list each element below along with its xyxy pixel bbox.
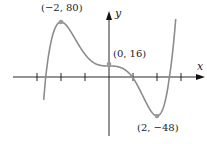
- function-curve: [44, 19, 176, 116]
- x-axis-arrow-icon: [196, 74, 205, 80]
- y-axis-label: y: [115, 8, 121, 19]
- y-intercept-label: (0, 16): [113, 49, 146, 59]
- y-axis-arrow-icon: [106, 11, 112, 20]
- x-axis-label: x: [197, 61, 203, 72]
- min-point-marker: [155, 114, 160, 119]
- max-point-label: (−2, 80): [41, 3, 83, 13]
- min-point-label: (2, −48): [137, 123, 179, 133]
- y-intercept-marker: [107, 62, 112, 67]
- max-point-marker: [59, 20, 64, 25]
